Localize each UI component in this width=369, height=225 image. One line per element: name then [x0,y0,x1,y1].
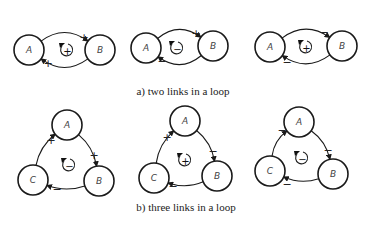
diagram-panels: ++AB++−AB−−−AB++−+ABC−−−+ABC+−−−ABC− [14,26,357,197]
link-polarity-sign: − [323,144,332,157]
caption-three-links: b) three links in a loop [136,201,235,213]
node-label: A [142,43,149,53]
node-label: B [339,41,345,51]
node-b: B [318,159,348,189]
link-polarity-sign: + [162,131,171,144]
link-polarity-sign: + [43,57,52,70]
causal-loop-diagrams: ++AB++−AB−−−AB++−+ABC−−−+ABC+−−−ABC− [0,0,369,225]
node-label: B [330,169,336,179]
node-label: B [97,45,103,55]
link-polarity-sign: − [319,26,328,39]
panel-a1: ++AB+ [14,31,115,70]
node-label: A [181,116,188,126]
node-label: A [25,45,32,55]
loop-polarity-icon: + [298,40,312,54]
loop-polarity-icon: + [177,153,191,167]
node-b: B [85,35,115,65]
node-label: B [96,176,102,186]
node-label: C [151,173,158,183]
loop-polarity-sign: − [65,161,73,172]
node-a: A [284,107,314,137]
node-a: A [170,106,200,136]
node-b: B [198,31,228,61]
node-a: A [52,110,82,140]
link-polarity-sign: − [282,56,291,69]
link-polarity-sign: − [282,178,291,191]
loop-polarity-icon: + [59,43,73,57]
link-polarity-sign: + [46,134,55,147]
panel-a3: −−AB+ [255,26,357,69]
loop-polarity-sign: + [181,156,189,167]
node-c: C [255,156,285,186]
node-b: B [202,161,232,191]
panel-b1: +−+ABC− [18,110,114,196]
panel-b2: −−+ABC+ [139,106,232,193]
node-label: A [63,120,70,130]
node-label: A [295,117,302,127]
link-polarity-sign: − [208,145,217,158]
panel-a2: +−AB− [131,27,228,68]
loop-polarity-sign: + [63,46,71,57]
node-b: B [84,166,114,196]
loop-polarity-sign: + [302,43,310,54]
link-polarity-sign: + [89,149,98,162]
loop-polarity-icon: − [61,158,75,172]
node-label: A [266,42,273,52]
node-label: B [214,171,220,181]
node-a: A [131,33,161,63]
loop-polarity-sign: − [173,44,181,55]
node-label: C [267,166,274,176]
node-label: B [210,41,216,51]
link-polarity-sign: − [168,180,177,193]
link-polarity-sign: − [52,183,61,196]
link-polarity-sign: + [191,27,200,40]
node-c: C [139,163,169,193]
node-b: B [327,31,357,61]
node-label: C [30,175,37,185]
loop-polarity-sign: − [298,154,306,165]
loop-polarity-icon: − [169,41,183,55]
panel-b3: −−−ABC− [255,107,348,191]
node-a: A [14,35,44,65]
node-c: C [18,165,48,195]
node-a: A [255,32,285,62]
caption-two-links: a) two links in a loop [136,85,229,97]
loop-polarity-icon: − [294,151,308,165]
